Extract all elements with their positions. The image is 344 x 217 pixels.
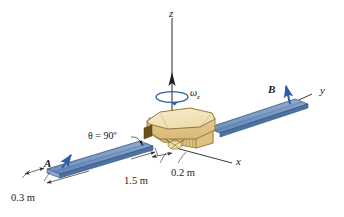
dimension-label-0-3m: 0.3 m [11, 193, 35, 204]
dimension-0-3m [22, 168, 50, 181]
diagram-graphics [0, 0, 344, 217]
z-axis [168, 18, 175, 122]
theta-angle-label: θ = 90º [88, 131, 117, 141]
y-axis-label: y [320, 85, 325, 96]
omega-symbol: ω [190, 87, 197, 98]
solar-panel-left [47, 141, 153, 178]
dimension-label-1-5m: 1.5 m [124, 176, 148, 187]
solar-panel-right [207, 99, 308, 137]
x-axis-label: x [236, 156, 241, 167]
satellite-body [144, 108, 215, 149]
figure-canvas: z y x ωz A B θ = 90º 0.3 m 1.5 m 0.2 m [0, 0, 344, 217]
omega-subscript: z [197, 93, 200, 101]
x-axis [172, 147, 232, 163]
point-label-a: A [44, 158, 51, 169]
z-axis-label: z [169, 8, 173, 19]
dimension-label-0-2m: 0.2 m [171, 168, 195, 179]
point-label-b: B [268, 84, 275, 95]
omega-z-label: ωz [190, 88, 200, 101]
